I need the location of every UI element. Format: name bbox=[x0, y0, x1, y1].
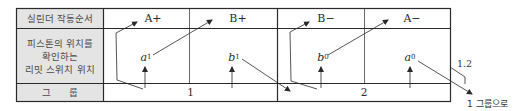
table-lines-and-arrows bbox=[0, 0, 528, 111]
cascade-sequence-diagram: 실린더 작동순서 피스톤의 위치를 확인하는 리밋 스위치 위치 그 룹 A+ … bbox=[0, 0, 528, 111]
